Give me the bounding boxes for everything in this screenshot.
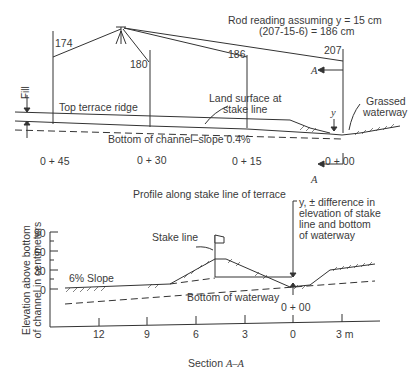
y-label-top: y [331,107,336,119]
station-0-15: 0 + 15 [232,155,262,167]
y-note-line4: of waterway [299,229,355,241]
x-tick-0: 0 [290,328,296,340]
x-tick-3m: 3 m [336,328,354,340]
y-tick-90: 90 [34,227,46,239]
x-tick-12: 12 [93,328,105,340]
slope-label: 6% Slope [69,272,114,284]
channel-bottom-label: Bottom of channel–slope 0.4% [108,133,250,145]
x-tick-9: 9 [144,328,150,340]
land-surface-label-2: stake line [223,103,267,115]
diagram-drawing [0,0,412,372]
profile-caption: Profile along stake line of terrace [133,188,286,200]
fill-label: Fill [20,79,32,99]
station-0-00-bottom: 0 + 00 [281,301,311,313]
station-0-45: 0 + 45 [40,155,70,167]
stake-line-label: Stake line [152,231,198,243]
y-tick-60: 60 [34,246,46,258]
rod-note-line2: (207-15-6) = 186 cm [259,25,354,37]
grassed-waterway-label-2: waterway [363,106,407,118]
station-0-30: 0 + 30 [137,154,167,166]
level-instrument-icon [116,27,126,44]
section-caption-prefix: Section [188,357,226,369]
y-tick-0: 0 [40,284,46,296]
top-terrace-ridge-label: Top terrace ridge [59,101,138,113]
section-caption: Section A–A [188,357,244,370]
y-tick-30: 30 [34,265,46,277]
x-tick-6: 6 [193,328,199,340]
section-caption-italic: A–A [226,358,244,369]
station-0-00-top: 0 + 00 [325,155,355,167]
x-tick-3-left: 3 [242,328,248,340]
section-marker-bottom: A [311,174,317,186]
bottom-of-waterway-label: Bottom of waterway [187,291,279,303]
rod-reading-174: 174 [55,37,73,49]
rod-reading-180: 180 [130,58,148,70]
rod-reading-186: 186 [228,48,246,60]
section-marker-top: A [311,65,317,77]
rod-reading-207: 207 [324,44,342,56]
